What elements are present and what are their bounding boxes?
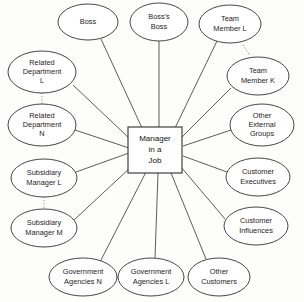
node-related-department-n[interactable]: RelatedDepartmentN xyxy=(8,104,76,146)
node-label-team-member-k: Member K xyxy=(241,76,275,85)
node-other-external-groups[interactable]: OtherExternalGroups xyxy=(230,104,294,146)
center-node-label: in a xyxy=(149,145,162,154)
connector-customer-executives xyxy=(183,156,227,172)
connector-subsidiary-manager-l xyxy=(76,153,129,172)
node-label-subsidiary-manager-l: Manager L xyxy=(26,178,61,187)
node-label-subsidiary-manager-m: Subsidiary xyxy=(27,218,62,227)
node-label-other-customers: Other xyxy=(210,267,229,276)
node-government-agencies-l[interactable]: GovernmentAgencies L xyxy=(118,258,184,296)
node-label-other-customers: Customers xyxy=(201,277,237,286)
connector-other-customers xyxy=(171,173,206,259)
node-label-subsidiary-manager-m: Manager M xyxy=(25,228,62,237)
node-other-customers[interactable]: OtherCustomers xyxy=(188,258,250,296)
connector-subsidiary-manager-m xyxy=(74,167,131,220)
connector-government-agencies-n xyxy=(100,172,146,262)
node-label-subsidiary-manager-l: Subsidiary xyxy=(27,168,62,177)
connector-related-department-n xyxy=(75,130,129,148)
node-label-government-agencies-n: Agencies N xyxy=(64,277,102,286)
center-node-label: Manager xyxy=(139,134,171,143)
connector-customer-influences xyxy=(181,167,225,219)
connector-related-department-l xyxy=(73,85,130,139)
node-label-government-agencies-n: Government xyxy=(63,267,104,276)
node-customer-executives[interactable]: CustomerExecutives xyxy=(226,158,290,196)
node-label-customer-executives: Executives xyxy=(240,177,276,186)
node-bosss-boss[interactable]: Boss'sBoss xyxy=(130,3,188,41)
node-label-boss: Boss xyxy=(80,17,97,26)
node-label-related-department-n: N xyxy=(39,129,44,138)
node-label-other-external-groups: External xyxy=(248,120,275,129)
node-center-manager-in-a-job[interactable]: Managerin aJob xyxy=(128,127,182,173)
node-label-team-member-l: Team xyxy=(221,14,239,23)
node-label-related-department-l: Related xyxy=(29,58,54,67)
connector-team-member-k xyxy=(182,88,231,137)
center-node-layer: Managerin aJob xyxy=(128,127,182,173)
node-government-agencies-n[interactable]: GovernmentAgencies N xyxy=(49,258,117,296)
node-label-customer-influences: Customer xyxy=(240,216,273,225)
node-label-government-agencies-l: Government xyxy=(131,267,172,276)
connector-other-external-groups xyxy=(183,130,231,146)
connector-government-agencies-l xyxy=(155,173,158,258)
connector-team-member-l xyxy=(175,41,217,128)
node-label-related-department-n: Related xyxy=(29,111,54,120)
node-team-member-l[interactable]: TeamMember L xyxy=(199,5,261,43)
node-label-related-department-l: Department xyxy=(23,67,62,76)
node-subsidiary-manager-m[interactable]: SubsidiaryManager M xyxy=(11,209,77,247)
node-label-other-external-groups: Other xyxy=(253,111,272,120)
node-boss[interactable]: Boss xyxy=(58,4,118,40)
node-label-bosss-boss: Boss xyxy=(151,22,168,31)
center-node-label: Job xyxy=(149,156,162,165)
node-subsidiary-manager-l[interactable]: SubsidiaryManager L xyxy=(11,159,77,197)
node-label-other-external-groups: Groups xyxy=(250,129,275,138)
pairlink-team-members xyxy=(243,45,250,56)
node-label-government-agencies-l: Agencies L xyxy=(133,277,170,286)
node-label-customer-influences: Influences xyxy=(239,226,273,235)
node-label-team-member-l: Member L xyxy=(213,24,246,33)
stakeholder-diagram: BossBoss'sBossTeamMember LTeamMember KOt… xyxy=(0,0,304,302)
node-customer-influences[interactable]: CustomerInfluences xyxy=(224,207,288,245)
node-label-customer-executives: Customer xyxy=(242,167,275,176)
node-label-team-member-k: Team xyxy=(249,66,267,75)
node-label-bosss-boss: Boss's xyxy=(148,12,170,21)
node-label-related-department-n: Department xyxy=(23,120,62,129)
diagram-canvas: BossBoss'sBossTeamMember LTeamMember KOt… xyxy=(0,0,304,302)
node-team-member-k[interactable]: TeamMember K xyxy=(227,57,289,95)
node-related-department-l[interactable]: RelatedDepartmentL xyxy=(8,51,76,93)
connector-boss xyxy=(101,39,142,128)
node-label-related-department-l: L xyxy=(40,76,44,85)
